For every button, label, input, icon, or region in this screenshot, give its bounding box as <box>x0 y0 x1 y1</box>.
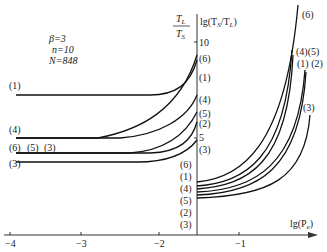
series-label: (2) <box>180 207 192 219</box>
curve-4-right <box>197 50 292 186</box>
series-label: (6) <box>302 9 314 21</box>
series-label: (6) <box>180 159 192 171</box>
curve-6-left <box>16 55 197 138</box>
series-label: (5) <box>27 142 39 154</box>
x-tick-label: −1 <box>235 238 246 249</box>
chart: −4 −3 −2 −1 10 5 lg(TS/TL) TL TS lg(Pe) … <box>0 0 327 252</box>
y-axis-label: lg(TS/TL) <box>200 16 237 29</box>
series-label: (5) <box>180 195 192 207</box>
series-label: (4) <box>199 94 211 106</box>
y-tick-label: 5 <box>199 132 204 143</box>
series-label: (3) <box>9 158 21 170</box>
curve-1-right <box>197 70 305 192</box>
x-tick-label: −4 <box>5 238 16 249</box>
x-axis-label: lg(Pe) <box>290 218 313 231</box>
series-label: (1) <box>180 171 192 183</box>
curve-4-left <box>16 95 197 138</box>
y-tick-label: 10 <box>199 37 209 48</box>
series-label: (4) <box>9 124 21 136</box>
x-tick-label: −3 <box>76 238 87 249</box>
series-label: (3) <box>303 102 315 114</box>
series-label: (3) <box>44 142 56 154</box>
curve-3-right <box>197 115 310 198</box>
series-label: (3) <box>199 144 211 156</box>
x-tick-label: −2 <box>154 238 165 249</box>
series-label: (3) <box>180 219 192 231</box>
series-label: (4) <box>180 183 192 195</box>
param-N: N=848 <box>48 55 77 66</box>
x-axis-arrow-icon <box>308 232 318 238</box>
series-label: (1) <box>9 80 21 92</box>
series-label: (6) <box>199 53 211 65</box>
frac-numerator: TL <box>176 13 186 26</box>
series-label: (2) <box>199 118 211 130</box>
param-n: n=10 <box>52 44 74 55</box>
frac-denominator: TS <box>176 28 186 41</box>
param-beta: β=3 <box>48 33 66 44</box>
series-label: (1) (2) <box>297 58 323 70</box>
curve-1-left <box>16 60 197 95</box>
series-label: (1) <box>199 72 211 84</box>
series-label: (6) <box>9 142 21 154</box>
series-label: (4)(5) <box>296 46 319 58</box>
